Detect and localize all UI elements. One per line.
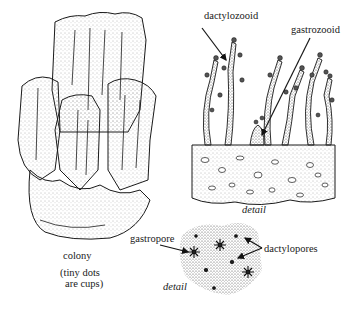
caption-zooid-detail: detail [242,204,266,216]
label-gastropore: gastropore [130,233,174,245]
label-gastrozooid: gastrozooid [291,24,340,36]
note-colony-line2: are cups) [65,278,103,290]
label-dactylopores: dactylopores [264,243,318,255]
label-dactylozooid: dactylozooid [204,10,258,22]
colony-illustration [18,12,156,239]
diagram-artwork [0,0,354,309]
caption-colony: colony [63,250,92,262]
caption-pore-detail: detail [163,281,187,293]
zooid-detail-illustration [192,28,335,205]
